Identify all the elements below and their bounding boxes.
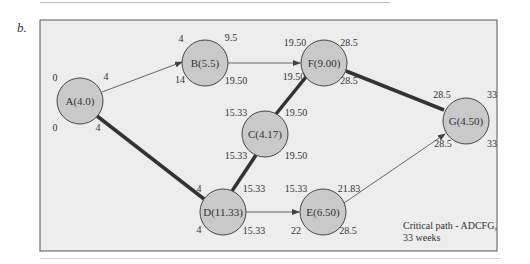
node-d-label: D(11.33) [203,206,243,219]
node-d-ls: 4 [197,224,202,235]
node-c-ef: 19.50 [285,107,308,118]
node-b-label: B(5.5) [191,57,220,70]
node-a-es: 0 [53,72,58,83]
node-a-label: A(4.0) [65,95,94,108]
node-g-es: 28.5 [433,89,451,100]
critical-path-note-line2: 33 weeks [403,232,441,243]
node-g-label: G(4.50) [449,115,484,128]
bottom-rule [40,258,500,259]
node-a-lf: 4 [96,122,101,133]
node-d-ef: 15.33 [243,183,266,194]
node-e-label: E(6.50) [306,206,340,219]
node-g-ef: 33 [487,89,497,100]
node-c-label: C(4.17) [248,128,282,141]
critical-path-note-line1: Critical path - ADCFG, [403,220,497,231]
node-b-ls: 14 [175,74,185,85]
node-c-es: 15.33 [225,107,248,118]
network-diagram: A(4.0) 0 4 0 4 B(5.5) 4 9.5 14 19.50 C(4… [0,0,530,264]
node-f-label: F(9.00) [308,57,341,70]
node-f-ls: 19.50 [283,71,306,82]
node-b-ef: 9.5 [225,32,238,43]
node-e-ef: 21.83 [338,183,361,194]
node-f-es: 19.50 [284,37,307,48]
node-g: G(4.50) 28.5 33 28.5 33 [433,89,497,149]
node-a-ef: 4 [104,71,109,82]
node-d-es: 4 [197,183,202,194]
node-a-ls: 0 [53,122,58,133]
node-e-ls: 22 [291,225,301,236]
node-e-es: 15.33 [285,183,308,194]
node-b-lf: 19.50 [225,75,248,86]
node-f-lf: 28.5 [340,75,358,86]
node-c-lf: 19.50 [285,150,308,161]
node-d-lf: 15.33 [243,225,266,236]
node-e-lf: 28.5 [339,225,357,236]
node-c-ls: 15.33 [225,150,248,161]
node-b-es: 4 [179,33,184,44]
node-g-lf: 33 [487,138,497,149]
node-g-ls: 28.5 [434,138,452,149]
node-f-ef: 28.5 [340,37,358,48]
